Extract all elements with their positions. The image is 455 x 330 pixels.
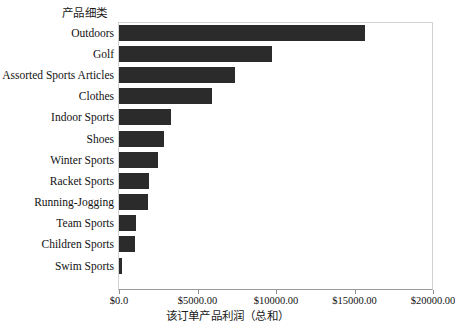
bar-category-label: Outdoors — [71, 27, 114, 39]
bar-category-label: Winter Sports — [50, 154, 114, 166]
bar-chart: 产品细类 OutdoorsGolfAssorted Sports Article… — [0, 0, 455, 330]
x-axis-ticks: $0.0$5000.00$10000.00$15000.00$20000.00 — [0, 290, 455, 308]
x-axis-title: 该订单产品利润（总和） — [0, 307, 455, 323]
bar-category-label: Children Sports — [41, 238, 114, 250]
bar-row[interactable]: Children Sports — [0, 234, 455, 255]
bar[interactable] — [119, 194, 148, 210]
bar-row[interactable]: Shoes — [0, 128, 455, 149]
bar-track — [119, 255, 433, 276]
x-tick-mark — [433, 290, 434, 294]
x-tick-mark — [355, 290, 356, 294]
bar-track — [119, 234, 433, 255]
bar-track — [119, 192, 433, 213]
bar[interactable] — [119, 109, 171, 125]
bar[interactable] — [119, 46, 272, 62]
bar-category-label: Racket Sports — [50, 175, 114, 187]
bar-track — [119, 107, 433, 128]
bar-category-label: Swim Sports — [55, 260, 114, 272]
bar-track — [119, 213, 433, 234]
x-tick-mark — [198, 290, 199, 294]
bar-row[interactable]: Assorted Sports Articles — [0, 64, 455, 85]
x-tick-label: $0.0 — [110, 295, 128, 306]
bar[interactable] — [119, 67, 235, 83]
bar-row[interactable]: Winter Sports — [0, 149, 455, 170]
bar-track — [119, 170, 433, 191]
bar[interactable] — [119, 236, 135, 252]
x-tick-label: $5000.00 — [178, 295, 217, 306]
bar-category-label: Running-Jogging — [34, 196, 114, 208]
bar-track — [119, 64, 433, 85]
bar-category-label: Indoor Sports — [51, 111, 114, 123]
x-tick-mark — [276, 290, 277, 294]
y-axis-title: 产品细类 — [62, 4, 107, 20]
x-tick-mark — [119, 290, 120, 294]
bar-row[interactable]: Team Sports — [0, 213, 455, 234]
bar-track — [119, 128, 433, 149]
bar-row[interactable]: Outdoors — [0, 22, 455, 43]
bar-track — [119, 22, 433, 43]
bar-category-label: Golf — [93, 48, 114, 60]
bar-category-label: Assorted Sports Articles — [2, 69, 114, 81]
x-tick-label: $15000.00 — [332, 295, 377, 306]
bar-row[interactable]: Indoor Sports — [0, 107, 455, 128]
bar-rows: OutdoorsGolfAssorted Sports ArticlesClot… — [0, 22, 455, 290]
bar[interactable] — [119, 25, 365, 41]
bar[interactable] — [119, 173, 149, 189]
bar-row[interactable]: Swim Sports — [0, 255, 455, 276]
bar[interactable] — [119, 215, 136, 231]
bar-row[interactable]: Clothes — [0, 86, 455, 107]
bar-category-label: Clothes — [79, 90, 114, 102]
bar[interactable] — [119, 258, 122, 274]
bar[interactable] — [119, 131, 164, 147]
bar-row[interactable]: Golf — [0, 43, 455, 64]
bar-track — [119, 43, 433, 64]
bar[interactable] — [119, 88, 212, 104]
bar[interactable] — [119, 152, 158, 168]
bar-category-label: Shoes — [87, 133, 114, 145]
bar-track — [119, 149, 433, 170]
bar-category-label: Team Sports — [56, 217, 114, 229]
x-tick-label: $10000.00 — [254, 295, 299, 306]
x-tick-label: $20000.00 — [411, 295, 455, 306]
bar-track — [119, 86, 433, 107]
bar-row[interactable]: Racket Sports — [0, 170, 455, 191]
bar-row[interactable]: Running-Jogging — [0, 192, 455, 213]
